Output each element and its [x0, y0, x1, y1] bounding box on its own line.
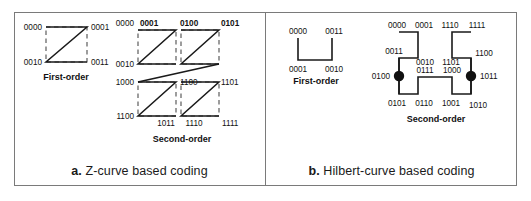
z1-label-0011: 0011	[91, 58, 109, 67]
h2-label-0110: 0110	[415, 99, 433, 108]
z2-label-1010: 1100	[116, 112, 134, 121]
hilbert-second-order-title: Second-order	[407, 114, 466, 124]
caption-panel-b: b. Hilbert-curve based coding	[266, 164, 517, 178]
z1-label-0010: 0010	[24, 58, 43, 67]
z2-path-top-right	[181, 30, 219, 64]
panel-hilbert-curve: 0000 0011 0001 0010 First-order 0000 000…	[266, 12, 517, 186]
hilbert-start-dot	[394, 71, 404, 81]
z2-label-1011: 1011	[157, 119, 175, 128]
h2-label-1100: 1100	[475, 49, 493, 58]
figure-root: 0000 0001 0010 0011 First-order	[0, 0, 531, 201]
z2-label-0000: 0000	[116, 19, 135, 28]
panel-z-curve: 0000 0001 0010 0011 First-order	[14, 12, 265, 186]
z-first-order-path	[46, 27, 87, 62]
z2-label-0010: 0010	[116, 60, 135, 69]
z2-label-0001: 0001	[140, 19, 159, 28]
h2-label-1001: 1001	[442, 99, 461, 108]
z2-label-1100: 1100	[180, 78, 198, 87]
h2-label-0001: 0001	[415, 21, 434, 30]
h2-label-0000: 0000	[388, 21, 407, 30]
h1-label-0011: 0011	[325, 27, 343, 36]
z1-label-0001: 0001	[91, 23, 110, 32]
z-second-order-title: Second-order	[153, 134, 212, 144]
h2-label-0101: 0101	[388, 99, 407, 108]
z2-label-0100: 0100	[180, 19, 199, 28]
z-first-order-title: First-order	[43, 72, 89, 82]
h2-label-0011: 0011	[385, 47, 403, 56]
h2-label-1110: 1110	[442, 21, 459, 30]
z2-label-1000: 1000	[116, 78, 135, 87]
caption-panel-a: a. Z-curve based coding	[14, 164, 265, 178]
hilbert-second-order-group: 0000 0001 1110 1111 0011 0010 1101 1100 …	[372, 21, 498, 124]
z2-label-1111: 1111	[222, 119, 239, 128]
z2-path-bottom-left	[138, 82, 176, 116]
h2-label-1011: 1011	[480, 72, 498, 81]
h2-label-0100: 0100	[372, 72, 391, 81]
z-first-order-group: 0000 0001 0010 0011 First-order	[24, 23, 110, 82]
h2-label-1010: 1010	[469, 101, 488, 110]
h1-label-0001: 0001	[289, 65, 308, 74]
h1-label-0010: 0010	[325, 65, 344, 74]
hilbert-first-order-group: 0000 0011 0001 0010 First-order	[289, 27, 344, 86]
hilbert-end-dot	[466, 71, 476, 81]
z1-label-0000: 0000	[24, 23, 43, 32]
hilbert-first-order-title: First-order	[293, 76, 339, 86]
caption-b-text: Hilbert-curve based coding	[323, 164, 474, 178]
caption-b-prefix: b.	[308, 164, 319, 178]
caption-a-prefix: a.	[71, 164, 82, 178]
h2-label-0111: 0111	[417, 66, 434, 75]
h2-label-1000: 1000	[443, 66, 462, 75]
hilbert-first-order-path	[298, 38, 332, 60]
z-curve-diagram: 0000 0001 0010 0011 First-order	[14, 12, 265, 162]
z2-label-1110: 1110	[186, 119, 203, 128]
caption-a-text: Z-curve based coding	[86, 164, 208, 178]
z2-path-top-left	[138, 30, 176, 64]
z2-connector-diagonal	[138, 64, 219, 82]
h1-label-0000: 0000	[289, 27, 308, 36]
z2-path-bottom-right	[181, 82, 219, 116]
h2-label-1111: 1111	[469, 21, 486, 30]
z-second-order-group: 0000 0001 0100 0101 0010 1000 1100 1100 …	[116, 19, 240, 144]
z2-label-1101: 1101	[221, 78, 239, 87]
hilbert-curve-diagram: 0000 0011 0001 0010 First-order 0000 000…	[266, 12, 517, 162]
hilbert-second-order-path	[399, 32, 471, 94]
z2-label-0101: 0101	[221, 19, 240, 28]
